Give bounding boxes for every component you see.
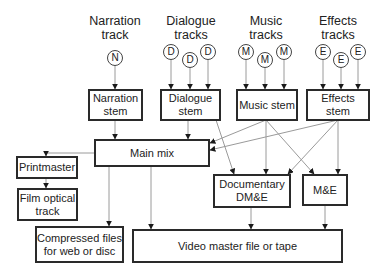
audio-workflow-diagram: Narration track Dialogue tracks Music tr… [0,0,378,273]
narration-track-header: Narration track [82,14,148,42]
dialogue-track-circle: D [163,44,179,60]
film-optical-track-box: Film optical track [17,188,78,221]
dialogue-stem-box: Dialogue stem [160,89,221,121]
narration-stem-box: Narration stem [88,89,143,121]
music-track-circle: M [238,44,254,60]
music-track-circle: M [276,44,292,60]
music-stem-box: Music stem [236,89,298,121]
effects-track-circle: E [350,44,366,60]
effects-tracks-header: Effects tracks [305,14,371,42]
printmaster-box: Printmaster [16,156,78,179]
narration-track-circle: N [107,50,123,66]
effects-stem-box: Effects stem [306,89,370,121]
compressed-files-box: Compressed files for web or disc [35,226,124,263]
me-box: M&E [302,174,348,206]
documentary-dme-box: Documentary DM&E [213,174,291,208]
video-master-box: Video master file or tape [132,229,343,263]
dialogue-tracks-header: Dialogue tracks [158,14,224,42]
effects-track-circle: E [333,52,349,68]
dialogue-track-circle: D [200,44,216,60]
effects-track-circle: E [315,44,331,60]
main-mix-box: Main mix [94,139,210,167]
music-track-circle: M [257,52,273,68]
dialogue-track-circle: D [182,52,198,68]
music-tracks-header: Music tracks [238,14,294,42]
